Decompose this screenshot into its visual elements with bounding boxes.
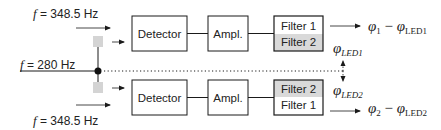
led1-square-icon xyxy=(93,36,103,47)
bottom-filter-2-label: Filter 2 xyxy=(281,83,316,95)
top-frequency-label: f = 348.5 Hz xyxy=(33,6,98,21)
bottom-frequency-label: f = 348.5 Hz xyxy=(33,113,98,128)
top-detector-label: Detector xyxy=(138,28,182,40)
bottom-chain: Detector Ampl. Filter 2 Filter 1 φ2 − φL… xyxy=(132,80,427,118)
top-filter-1-label: Filter 1 xyxy=(281,20,316,32)
top-output-expression: φ1 − φLED1 xyxy=(368,18,427,36)
phi-led2-label: φLED2 xyxy=(333,82,363,100)
bottom-detector-label: Detector xyxy=(138,92,182,104)
bottom-filter-1-label: Filter 1 xyxy=(281,99,316,111)
middle-frequency-label: f = 280 Hz xyxy=(20,57,75,72)
top-amplifier-label: Ampl. xyxy=(213,28,242,40)
signal-processing-diagram: f = 348.5 Hz f = 280 Hz f = 348.5 Hz Det… xyxy=(0,0,441,130)
led2-square-icon xyxy=(93,82,103,93)
top-chain: Detector Ampl. Filter 1 Filter 2 φ1 − φL… xyxy=(132,16,427,51)
split-node xyxy=(95,68,102,75)
phi-led1-label: φLED1 xyxy=(333,40,363,58)
top-filter-2-label: Filter 2 xyxy=(281,36,316,48)
bottom-amplifier-label: Ampl. xyxy=(213,92,242,104)
bottom-output-expression: φ2 − φLED2 xyxy=(368,100,427,118)
